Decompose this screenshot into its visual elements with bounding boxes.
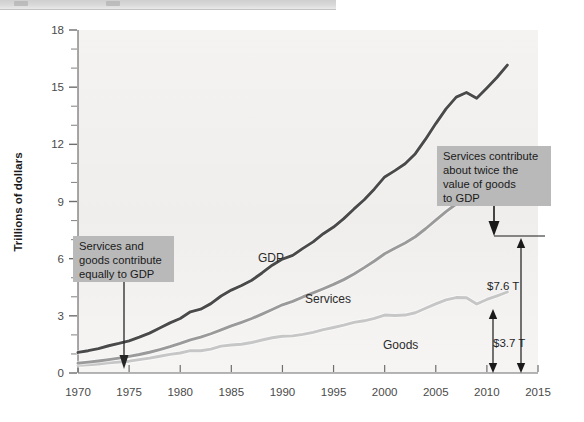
x-tick-label: 1975: [116, 386, 142, 398]
measure-label-goods-gap: $3.7 T: [493, 337, 525, 349]
y-tick-label: 0: [58, 367, 64, 379]
y-tick-label: 6: [58, 253, 64, 265]
callout-right-line-0: Services contribute: [443, 150, 538, 162]
y-tick-label: 3: [58, 310, 64, 322]
y-tick-label: 15: [51, 81, 64, 93]
y-tick-label: 18: [51, 24, 64, 36]
y-axis-title: Trillions of dollars: [12, 152, 24, 251]
y-axis-ticks: [69, 30, 77, 373]
x-axis-tick-labels: 1970197519801985199019952000200520102015: [65, 386, 551, 398]
x-tick-label: 2015: [525, 386, 551, 398]
y-axis-tick-labels: 0369121518: [51, 24, 64, 379]
callout-left-line-0: Services and: [79, 240, 144, 252]
x-tick-label: 2000: [372, 386, 398, 398]
chart-screenshot: 0369121518 19701975198019851990199520002…: [0, 0, 584, 422]
x-tick-label: 2010: [474, 386, 500, 398]
x-tick-label: 1990: [270, 386, 296, 398]
y-tick-label: 9: [58, 196, 64, 208]
callout-left-line-2: equally to GDP: [79, 268, 154, 280]
x-tick-label: 1980: [167, 386, 193, 398]
callout-right-line-3: to GDP: [443, 192, 480, 204]
series-label-services: Services: [305, 292, 351, 306]
x-tick-label: 1995: [321, 386, 347, 398]
series-label-goods: Goods: [383, 338, 418, 352]
callout-right-line-1: about twice the: [443, 164, 518, 176]
callout-right-line-2: value of goods: [443, 178, 516, 190]
callout-left-line-1: goods contribute: [79, 254, 162, 266]
y-tick-label: 12: [51, 138, 64, 150]
series-label-gdp: GDP: [258, 251, 284, 265]
measure-label-services-gap: $7.6 T: [487, 280, 519, 292]
line-chart: 0369121518 19701975198019851990199520002…: [0, 0, 584, 422]
x-tick-label: 1970: [65, 386, 91, 398]
x-tick-label: 1985: [219, 386, 245, 398]
x-tick-label: 2005: [423, 386, 449, 398]
